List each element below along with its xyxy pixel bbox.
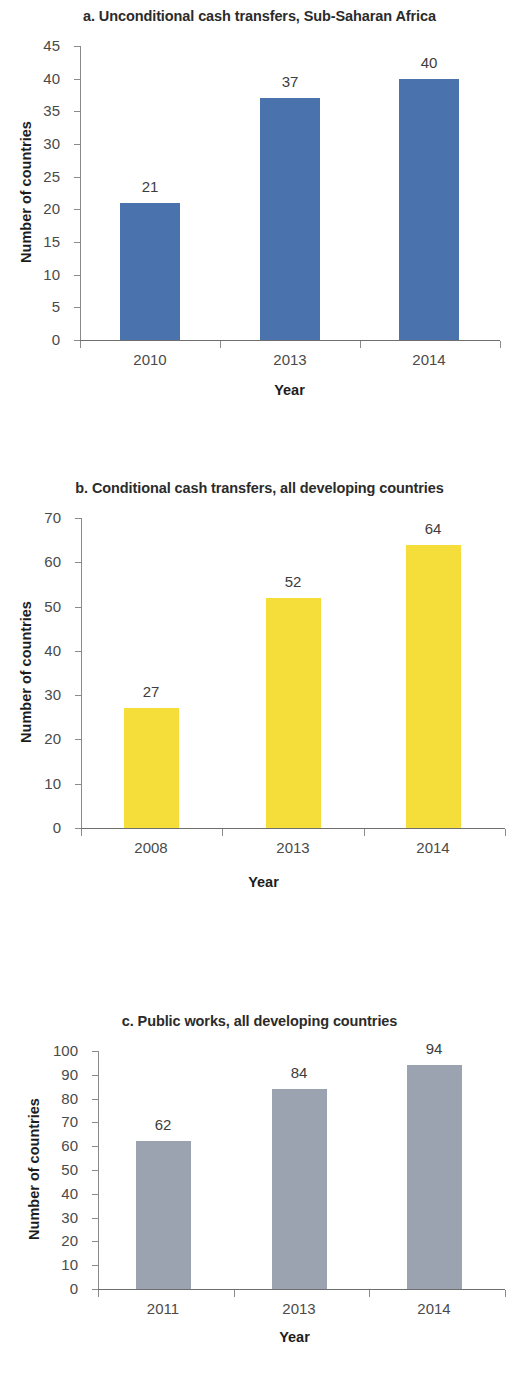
chart-b-y-axis-label: Number of countries bbox=[18, 497, 34, 847]
chart-c-y-tick-label: 20 bbox=[0, 1233, 88, 1248]
chart-c-y-tick-label: 0 bbox=[0, 1281, 88, 1296]
chart-a-x-tickmark bbox=[500, 341, 501, 348]
chart-a-y-tick-label: 10 bbox=[0, 267, 70, 282]
chart-a-y-tickmark bbox=[74, 79, 80, 80]
chart-c-bar-value-label: 84 bbox=[259, 1065, 339, 1080]
chart-a-x-axis-label: Year bbox=[0, 382, 519, 398]
chart-panel-a: a. Unconditional cash transfers, Sub-Sah… bbox=[0, 0, 519, 444]
chart-b-bar bbox=[266, 598, 321, 828]
chart-a-y-tick-label: 25 bbox=[0, 169, 70, 184]
chart-a-bar-value-label: 40 bbox=[389, 55, 469, 70]
chart-b-x-tick-label: 2014 bbox=[388, 840, 478, 855]
chart-b-bar-value-label: 52 bbox=[253, 574, 333, 589]
chart-a-y-tick-label: 30 bbox=[0, 136, 70, 151]
chart-c-x-tickmark bbox=[98, 1290, 99, 1297]
chart-b-bar-value-label: 64 bbox=[393, 521, 473, 536]
chart-a-y-tickmark bbox=[74, 144, 80, 145]
chart-c-y-tick-label: 50 bbox=[0, 1162, 88, 1177]
chart-a-y-tick-label: 35 bbox=[0, 103, 70, 118]
chart-c-y-tick-label: 90 bbox=[0, 1067, 88, 1082]
chart-a-bar-value-label: 37 bbox=[250, 74, 330, 89]
chart-a-y-tickmark bbox=[74, 242, 80, 243]
chart-b-y-tickmark bbox=[75, 784, 81, 785]
chart-b-y-tick-label: 0 bbox=[0, 820, 71, 835]
chart-b-y-tickmark bbox=[75, 562, 81, 563]
chart-a-x-tick-label: 2014 bbox=[384, 352, 474, 367]
chart-b-bar bbox=[124, 708, 179, 828]
chart-a-y-tick-label: 0 bbox=[0, 332, 70, 347]
chart-c-x-tick-label: 2014 bbox=[389, 1301, 479, 1316]
chart-a-x-tickmark bbox=[360, 341, 361, 348]
chart-c-y-tick-label: 100 bbox=[0, 1043, 88, 1058]
chart-c-y-tickmark bbox=[92, 1241, 98, 1242]
chart-c-title: c. Public works, all developing countrie… bbox=[0, 1013, 519, 1029]
chart-b-y-tick-label: 60 bbox=[0, 554, 71, 569]
chart-a-y-tick-label: 5 bbox=[0, 299, 70, 314]
chart-c-y-tickmark bbox=[92, 1194, 98, 1195]
chart-c-x-tick-label: 2013 bbox=[254, 1301, 344, 1316]
chart-a-bar bbox=[120, 203, 180, 340]
chart-c-y-tickmark bbox=[92, 1265, 98, 1266]
chart-a-x-axis-line bbox=[80, 340, 500, 341]
chart-b-y-axis-line bbox=[81, 518, 82, 829]
chart-c-y-tickmark bbox=[92, 1146, 98, 1147]
chart-c-bar bbox=[407, 1065, 462, 1289]
chart-b-bar-value-label: 27 bbox=[111, 684, 191, 699]
chart-c-y-tick-label: 70 bbox=[0, 1114, 88, 1129]
chart-b-x-axis-label: Year bbox=[0, 874, 519, 890]
chart-c-y-tick-label: 30 bbox=[0, 1210, 88, 1225]
chart-c-y-axis-line bbox=[98, 1051, 99, 1290]
chart-a-y-tick-label: 40 bbox=[0, 71, 70, 86]
chart-a-bar bbox=[260, 98, 320, 340]
chart-c-y-tickmark bbox=[92, 1075, 98, 1076]
chart-a-x-tickmark bbox=[220, 341, 221, 348]
chart-b-x-tickmark bbox=[81, 829, 82, 836]
chart-b-plot-area: 706050403020100Number of countries272008… bbox=[0, 496, 519, 971]
chart-b-x-axis-line bbox=[81, 828, 505, 829]
chart-a-y-tick-label: 45 bbox=[0, 38, 70, 53]
chart-a-x-tickmark bbox=[80, 341, 81, 348]
chart-c-bar bbox=[272, 1089, 327, 1289]
chart-c-plot-area: 1009080706050403020100Number of countrie… bbox=[0, 1029, 519, 1396]
chart-b-x-tickmark bbox=[505, 829, 506, 836]
chart-a-y-tickmark bbox=[74, 46, 80, 47]
chart-b-y-tickmark bbox=[75, 651, 81, 652]
chart-a-plot-area: 454035302520151050Number of countries212… bbox=[0, 24, 519, 444]
chart-c-y-tickmark bbox=[92, 1170, 98, 1171]
chart-c-y-tickmark bbox=[92, 1099, 98, 1100]
chart-c-y-tickmark bbox=[92, 1122, 98, 1123]
chart-b-y-tick-label: 50 bbox=[0, 599, 71, 614]
chart-c-bar bbox=[136, 1141, 191, 1289]
chart-c-y-tick-label: 60 bbox=[0, 1138, 88, 1153]
chart-b-y-tick-label: 20 bbox=[0, 731, 71, 746]
chart-a-y-tick-label: 15 bbox=[0, 234, 70, 249]
chart-c-x-tickmark bbox=[505, 1290, 506, 1297]
chart-b-y-tick-label: 40 bbox=[0, 643, 71, 658]
chart-b-y-tick-label: 70 bbox=[0, 510, 71, 525]
chart-a-bar-value-label: 21 bbox=[110, 179, 190, 194]
chart-a-bar bbox=[399, 79, 459, 340]
chart-c-y-tickmark bbox=[92, 1051, 98, 1052]
chart-a-y-axis-label: Number of countries bbox=[18, 25, 34, 359]
chart-a-title: a. Unconditional cash transfers, Sub-Sah… bbox=[0, 8, 519, 24]
chart-c-x-axis-line bbox=[98, 1289, 505, 1290]
chart-c-y-axis-label: Number of countries bbox=[26, 1030, 42, 1308]
chart-c-bar-value-label: 94 bbox=[394, 1041, 474, 1056]
chart-b-x-tick-label: 2008 bbox=[106, 840, 196, 855]
chart-a-y-tickmark bbox=[74, 111, 80, 112]
chart-c-x-axis-label: Year bbox=[0, 1329, 519, 1345]
chart-b-x-tickmark bbox=[222, 829, 223, 836]
chart-a-y-tickmark bbox=[74, 209, 80, 210]
chart-b-y-tick-label: 30 bbox=[0, 687, 71, 702]
chart-b-x-tickmark bbox=[364, 829, 365, 836]
chart-c-bar-value-label: 62 bbox=[123, 1117, 203, 1132]
chart-a-y-tickmark bbox=[74, 177, 80, 178]
chart-c-y-tick-label: 10 bbox=[0, 1257, 88, 1272]
chart-b-y-tickmark bbox=[75, 695, 81, 696]
chart-c-y-tick-label: 80 bbox=[0, 1091, 88, 1106]
chart-c-x-tickmark bbox=[369, 1290, 370, 1297]
chart-b-y-tickmark bbox=[75, 607, 81, 608]
chart-c-y-tick-label: 40 bbox=[0, 1186, 88, 1201]
chart-b-y-tickmark bbox=[75, 739, 81, 740]
chart-a-y-axis-line bbox=[80, 46, 81, 341]
